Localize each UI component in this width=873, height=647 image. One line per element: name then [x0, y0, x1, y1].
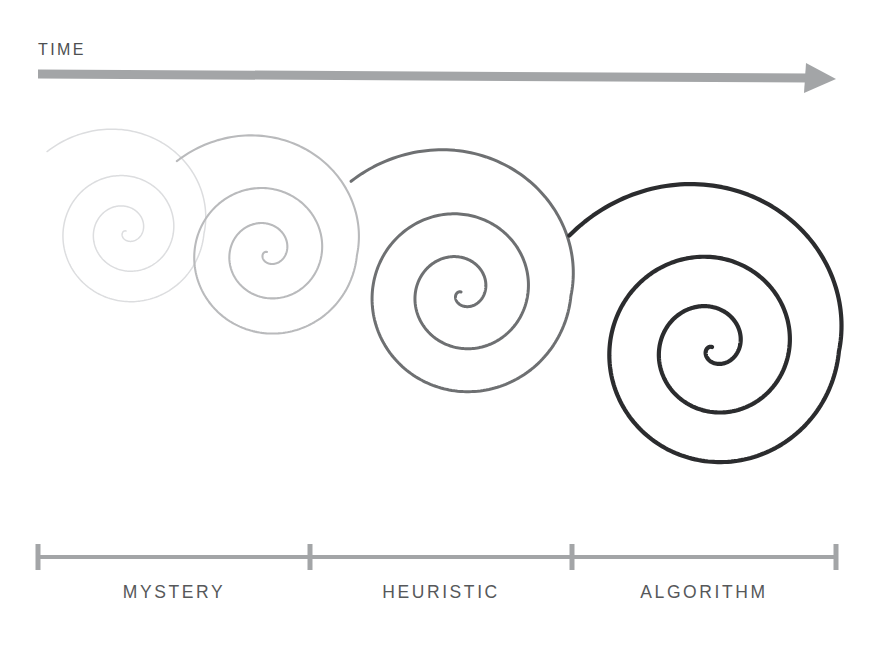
time-arrow-head-icon [804, 63, 836, 93]
axis-tick-3 [834, 544, 839, 570]
diagram-svg: TIME MYSTERYHEURISTICALGORITHM [0, 0, 873, 647]
axis-tick-1 [308, 544, 313, 570]
spiral-heuristic-1 [351, 150, 573, 392]
time-axis-label: TIME [38, 41, 86, 58]
stage-axis-group: MYSTERYHEURISTICALGORITHM [36, 544, 839, 602]
axis-tick-2 [570, 544, 575, 570]
time-axis-group: TIME [38, 41, 836, 93]
time-arrow-shaft [38, 74, 810, 78]
spiral-mystery-1 [47, 129, 206, 302]
stage-label-heuristic: HEURISTIC [382, 582, 500, 602]
spirals-group [47, 129, 841, 462]
stage-label-algorithm: ALGORITHM [640, 582, 767, 602]
stage-axis-labels: MYSTERYHEURISTICALGORITHM [123, 582, 768, 602]
stage-label-mystery: MYSTERY [123, 582, 225, 602]
diagram-canvas: TIME MYSTERYHEURISTICALGORITHM [0, 0, 873, 647]
spiral-algorithm-1 [569, 184, 841, 462]
axis-tick-0 [36, 544, 41, 570]
